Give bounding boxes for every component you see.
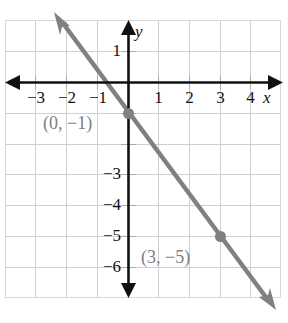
- point-marker-0-neg1[interactable]: [123, 108, 134, 119]
- point-label-0-neg1: (0, −1): [43, 113, 92, 134]
- coordinate-plane: [0, 0, 288, 323]
- coordinate-graph-figure: −3 −2 −1 1 2 3 4 1 −3 −4 −5 −6 y x (0, −…: [0, 0, 288, 323]
- y-tick-label-1: 1: [104, 41, 121, 61]
- y-tick-label-neg4: −4: [99, 195, 121, 215]
- y-tick-label-neg3: −3: [99, 164, 121, 184]
- y-tick-label-neg5: −5: [99, 226, 121, 246]
- x-tick-label-1: 1: [150, 88, 167, 108]
- x-tick-label-4: 4: [242, 88, 259, 108]
- y-axis-label: y: [135, 22, 143, 42]
- x-tick-label-2: 2: [181, 88, 198, 108]
- point-label-3-neg5: (3, −5): [141, 247, 190, 268]
- x-tick-label-3: 3: [212, 88, 229, 108]
- x-tick-label-neg2: −2: [56, 88, 78, 108]
- x-tick-label-neg3: −3: [25, 88, 47, 108]
- point-marker-3-neg5[interactable]: [215, 231, 226, 242]
- x-axis-label: x: [263, 88, 271, 108]
- x-tick-label-neg1: −1: [87, 88, 109, 108]
- y-tick-label-neg6: −6: [99, 257, 121, 277]
